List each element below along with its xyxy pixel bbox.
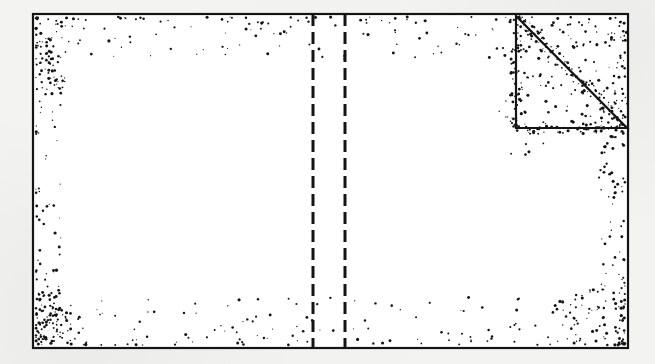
- scanned-figure-canvas: [0, 0, 655, 364]
- figure-root: [0, 0, 655, 364]
